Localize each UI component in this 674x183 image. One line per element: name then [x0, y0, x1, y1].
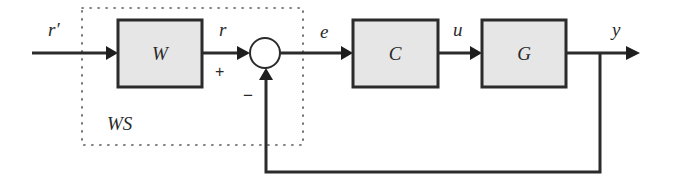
arrow-into-w	[106, 46, 118, 60]
signal-label-u: u	[453, 19, 463, 40]
group-label-ws: WS	[107, 113, 133, 134]
block-label-c: C	[389, 43, 402, 64]
plus-sign: +	[215, 63, 224, 80]
block-label-w: W	[152, 43, 170, 64]
signal-label-e: e	[320, 21, 328, 42]
signal-label-r-prime: r′	[48, 19, 60, 40]
arrow-into-c	[341, 46, 353, 60]
signal-label-r: r	[219, 19, 227, 40]
summing-junction	[250, 38, 280, 68]
block-label-g: G	[517, 43, 531, 64]
block-diagram: r′ W r + − e C u G y WS	[0, 0, 674, 183]
arrow-feedback-into-sum	[259, 68, 273, 80]
arrow-into-sum	[237, 46, 250, 60]
minus-sign: −	[243, 86, 253, 105]
arrow-output-y	[626, 46, 640, 60]
signal-label-y: y	[610, 19, 621, 40]
arrow-into-g	[470, 46, 482, 60]
